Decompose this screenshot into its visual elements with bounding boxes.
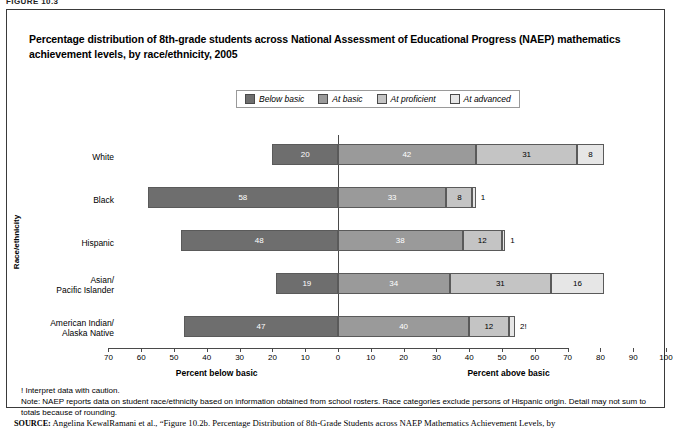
legend-item-below-basic[interactable]: Below basic [245, 94, 304, 104]
bar-segment-at-basic[interactable]: 38 [338, 230, 463, 251]
x-axis-tick [207, 348, 208, 352]
x-axis-tick-label: 20 [399, 353, 408, 362]
x-axis-tick [436, 348, 437, 352]
bar-segment-at-proficient[interactable]: 31 [476, 144, 578, 165]
x-axis-tick-label: 10 [366, 353, 375, 362]
x-axis-tick [338, 348, 339, 352]
bar-segment-at-advanced[interactable]: 16 [551, 273, 603, 294]
chart-row: Black583381 [7, 178, 666, 221]
x-axis-tick-label: 80 [596, 353, 605, 362]
bar-segment-at-basic[interactable]: 42 [338, 144, 476, 165]
x-axis-tick-label: 50 [498, 353, 507, 362]
bar-segment-at-basic[interactable]: 40 [338, 316, 469, 337]
x-axis-tick [568, 348, 569, 352]
stacked-bar: 4740122! [7, 316, 666, 337]
bar-segment-below-basic[interactable]: 19 [276, 273, 338, 294]
legend-item-at-basic[interactable]: At basic [318, 94, 362, 104]
legend-label-below-basic: Below basic [259, 94, 304, 104]
bar-segment-at-proficient[interactable]: 31 [450, 273, 552, 294]
x-axis-tick-label: 40 [202, 353, 211, 362]
bar-value-label-at-advanced: 1 [510, 230, 514, 251]
x-axis-tick [600, 348, 601, 352]
x-axis-tick [272, 348, 273, 352]
x-axis-tick-label: 40 [465, 353, 474, 362]
x-axis-tick-label: 0 [336, 353, 340, 362]
x-axis-tick-label: 50 [170, 353, 179, 362]
x-axis-tick-label: 70 [104, 353, 113, 362]
figure-label: FIGURE 10.3 [6, 0, 58, 6]
bar-segment-below-basic[interactable]: 58 [148, 187, 338, 208]
x-axis-tick [305, 348, 306, 352]
x-axis-tick [108, 348, 109, 352]
bar-segment-below-basic[interactable]: 20 [272, 144, 338, 165]
x-axis-tick-label: 60 [137, 353, 146, 362]
x-axis-tick [404, 348, 405, 352]
chart-notes: ! Interpret data with caution. Note: NAE… [21, 386, 661, 418]
x-axis-tick [174, 348, 175, 352]
note-caution: ! Interpret data with caution. [21, 386, 661, 397]
legend-item-at-advanced[interactable]: At advanced [450, 94, 511, 104]
x-axis: 706050403020100102030405060708090100Perc… [7, 348, 666, 382]
x-axis-tick [240, 348, 241, 352]
x-axis-tick-label: 70 [563, 353, 572, 362]
bar-segment-below-basic[interactable]: 47 [184, 316, 338, 337]
bar-segment-at-advanced[interactable] [472, 187, 475, 208]
x-axis-tick [535, 348, 536, 352]
legend-label-at-proficient: At proficient [391, 94, 436, 104]
bar-segment-at-advanced[interactable] [502, 230, 505, 251]
bar-segment-at-advanced[interactable]: 8 [577, 144, 603, 165]
bar-segment-at-basic[interactable]: 34 [338, 273, 450, 294]
x-axis-tick-label: 30 [235, 353, 244, 362]
chart-legend: Below basic At basic At proficient At ad… [236, 90, 520, 108]
bar-value-label-at-advanced: 2! [520, 316, 527, 337]
legend-swatch-below-basic [245, 94, 255, 104]
source-citation: SOURCE: Angelina KewalRamani et al., “Fi… [14, 418, 666, 430]
x-axis-tick [469, 348, 470, 352]
x-axis-left-title: Percent below basic [176, 368, 258, 378]
x-axis-tick [371, 348, 372, 352]
bar-segment-at-proficient[interactable]: 12 [469, 316, 508, 337]
chart-row: American Indian/ Alaska Native4740122! [7, 307, 666, 350]
stacked-bar: 4838121 [7, 230, 666, 251]
chart-row: White2042318 [7, 135, 666, 178]
x-axis-tick [502, 348, 503, 352]
x-axis-tick-label: 90 [629, 353, 638, 362]
bar-segment-below-basic[interactable]: 48 [181, 230, 338, 251]
x-axis-right-title: Percent above basic [467, 368, 549, 378]
x-axis-tick [666, 348, 667, 352]
note-general: Note: NAEP reports data on student race/… [21, 397, 661, 419]
legend-item-at-proficient[interactable]: At proficient [377, 94, 436, 104]
bar-segment-at-advanced[interactable] [509, 316, 516, 337]
x-axis-tick-label: 30 [432, 353, 441, 362]
bar-value-label-at-advanced: 1 [481, 187, 485, 208]
bar-segment-at-basic[interactable]: 33 [338, 187, 446, 208]
x-axis-tick [141, 348, 142, 352]
stacked-bar: 2042318 [7, 144, 666, 165]
x-axis-tick-label: 100 [659, 353, 672, 362]
bar-segment-at-proficient[interactable]: 8 [446, 187, 472, 208]
legend-swatch-at-advanced [450, 94, 460, 104]
figure-panel: Percentage distribution of 8th-grade stu… [6, 9, 665, 408]
x-axis-tick-label: 60 [530, 353, 539, 362]
stacked-bar: 19343116 [7, 273, 666, 294]
legend-label-at-basic: At basic [332, 94, 362, 104]
source-text: Angelina KewalRamani et al., “Figure 10.… [51, 418, 555, 428]
source-keyword: SOURCE: [14, 419, 51, 428]
legend-swatch-at-proficient [377, 94, 387, 104]
chart-row: Asian/ Pacific Islander19343116 [7, 264, 666, 307]
x-axis-tick-label: 10 [301, 353, 310, 362]
legend-swatch-at-basic [318, 94, 328, 104]
x-axis-tick [633, 348, 634, 352]
chart-plot-area: White2042318Black583381Hispanic4838121As… [7, 135, 666, 350]
page-title: Percentage distribution of 8th-grade stu… [29, 32, 647, 62]
stacked-bar: 583381 [7, 187, 666, 208]
chart-row: Hispanic4838121 [7, 221, 666, 264]
x-axis-tick-label: 20 [268, 353, 277, 362]
bar-segment-at-proficient[interactable]: 12 [463, 230, 502, 251]
legend-label-at-advanced: At advanced [464, 94, 511, 104]
